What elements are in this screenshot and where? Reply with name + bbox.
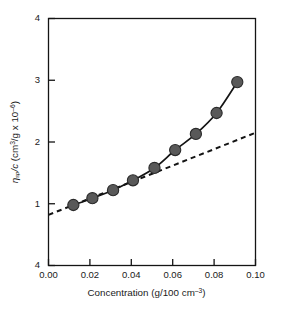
y-axis-units-mid: /g x 10 [9, 112, 20, 141]
y-tick-label-top: 4 [26, 13, 40, 23]
y-axis-eta-subscript: sp [14, 171, 20, 177]
x-tick-label-1: 0.02 [70, 270, 110, 280]
data-point [68, 199, 79, 210]
x-axis-title: Concentration (g/100 cm–3) [0, 288, 293, 298]
y-axis-units-close: ) [9, 101, 20, 104]
y-axis-units-prefix: (cm [9, 145, 20, 164]
data-point [211, 107, 222, 118]
y-tick-label-2: 2 [26, 137, 40, 147]
y-tick-label-bottom: 4 [26, 260, 40, 270]
data-point [232, 77, 243, 88]
x-tick-label-2: 0.04 [111, 270, 151, 280]
x-tick-label-0: 0.00 [29, 270, 69, 280]
y-tick-label-3: 3 [26, 75, 40, 85]
data-point [149, 162, 160, 173]
data-point [87, 193, 98, 204]
y-axis-title-wrap: ηsp/c (cm3/g x 10–6) [4, 0, 26, 284]
y-tick-label-1: 1 [26, 199, 40, 209]
y-axis-divisor: /c [9, 164, 20, 172]
plot-canvas [0, 0, 293, 311]
chart-figure: 4 3 2 1 4 0.00 0.02 0.04 0.06 0.08 0.10 … [0, 0, 293, 311]
x-tick-label-5: 0.10 [236, 270, 276, 280]
data-point [190, 128, 201, 139]
y-axis-eta-symbol: η [9, 178, 20, 183]
x-axis-title-text: Concentration (g/100 cm [88, 287, 195, 298]
plot-frame [49, 19, 256, 266]
y-axis-title: ηsp/c (cm3/g x 10–6) [10, 101, 20, 183]
x-axis-title-close: ) [202, 287, 205, 298]
x-tick-label-3: 0.06 [153, 270, 193, 280]
data-point [107, 185, 118, 196]
y-axis-units-exp1: 3 [9, 141, 16, 145]
y-axis-units-exp2: –6 [9, 104, 16, 111]
x-tick-label-4: 0.08 [194, 270, 234, 280]
data-point [127, 175, 138, 186]
data-point [170, 144, 181, 155]
